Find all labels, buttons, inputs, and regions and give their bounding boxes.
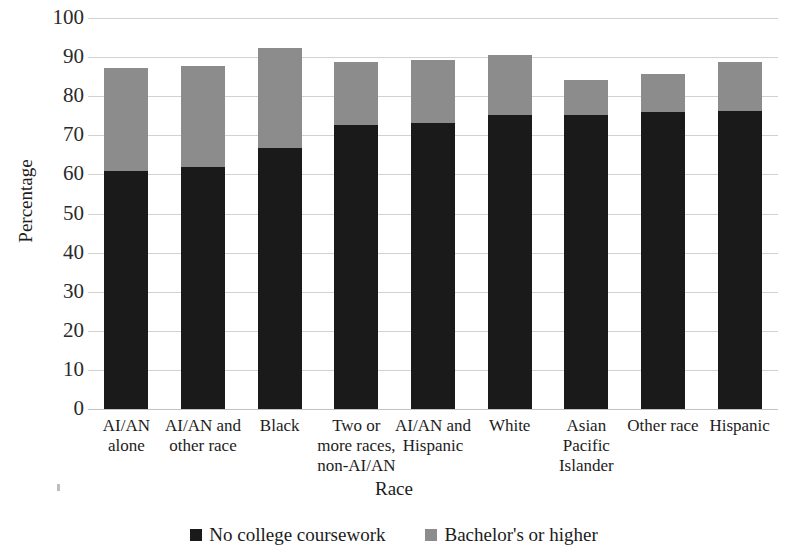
x-axis-title: Race xyxy=(0,478,788,500)
y-tick-label: 60 xyxy=(32,163,84,184)
bar-slot xyxy=(165,18,242,409)
x-tick-label-line: Islander xyxy=(536,456,637,476)
bar-segment[interactable] xyxy=(258,48,302,148)
legend-swatch-icon xyxy=(190,529,202,541)
y-tick-label: 10 xyxy=(32,359,84,380)
bar-segment[interactable] xyxy=(334,62,378,125)
x-tick-label-line: Hispanic xyxy=(383,436,484,456)
x-tick-label-line: other race xyxy=(153,436,254,456)
legend-item[interactable]: No college coursework xyxy=(190,524,385,546)
bar-segment[interactable] xyxy=(104,68,148,170)
bar-segment[interactable] xyxy=(564,80,608,115)
x-tick-label-line: non-AI/AN xyxy=(306,456,407,476)
bar-segment[interactable] xyxy=(411,123,455,409)
bar-slot xyxy=(548,18,625,409)
bar-segment[interactable] xyxy=(488,55,532,115)
bars-layer xyxy=(88,18,778,409)
bar-segment[interactable] xyxy=(641,112,685,409)
legend-swatch-icon xyxy=(425,529,437,541)
bar-slot xyxy=(625,18,702,409)
bar-slot xyxy=(395,18,472,409)
legend-item-label: Bachelor's or higher xyxy=(444,524,597,546)
chart-legend: No college courseworkBachelor's or highe… xyxy=(0,524,788,546)
gridline xyxy=(88,409,778,410)
stacked-bar-chart: Percentage 1009080706050403020100 AI/ANa… xyxy=(0,0,788,554)
legend-item[interactable]: Bachelor's or higher xyxy=(425,524,597,546)
bar-segment[interactable] xyxy=(488,115,532,409)
bar-segment[interactable] xyxy=(334,125,378,409)
plot-area xyxy=(88,18,778,409)
bar-segment[interactable] xyxy=(181,167,225,409)
y-tick-label: 100 xyxy=(32,7,84,28)
bar-slot xyxy=(471,18,548,409)
y-tick-label: 30 xyxy=(32,281,84,302)
bar-segment[interactable] xyxy=(718,62,762,111)
bar-slot xyxy=(318,18,395,409)
x-tick-label-line: Hispanic xyxy=(689,416,788,436)
y-tick-label: 50 xyxy=(32,203,84,224)
x-tick-label: Hispanic xyxy=(689,416,788,436)
x-axis-tick-labels: AI/ANaloneAI/AN andother raceBlackTwo or… xyxy=(88,416,778,474)
y-tick-label: 40 xyxy=(32,242,84,263)
bar-segment[interactable] xyxy=(104,171,148,410)
bar-slot xyxy=(88,18,165,409)
y-tick-label: 70 xyxy=(32,124,84,145)
bar-segment[interactable] xyxy=(258,148,302,409)
bar-slot xyxy=(701,18,778,409)
bar-segment[interactable] xyxy=(411,60,455,123)
y-tick-label: 80 xyxy=(32,85,84,106)
bar-segment[interactable] xyxy=(181,66,225,167)
bar-slot xyxy=(241,18,318,409)
x-tick-label-line: Pacific xyxy=(536,436,637,456)
bar-segment[interactable] xyxy=(718,111,762,409)
y-tick-label: 20 xyxy=(32,320,84,341)
scan-artifact xyxy=(57,484,60,491)
legend-item-label: No college coursework xyxy=(209,524,385,546)
y-axis-tick-labels: 1009080706050403020100 xyxy=(0,0,84,420)
bar-segment[interactable] xyxy=(564,115,608,409)
bar-segment[interactable] xyxy=(641,74,685,112)
y-tick-label: 90 xyxy=(32,46,84,67)
